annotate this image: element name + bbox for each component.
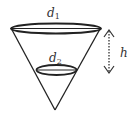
cone-diagram: d1 d2 h	[0, 0, 134, 118]
d2-label: d2	[49, 51, 62, 66]
cone-left-side	[11, 28, 55, 110]
d1-label: d1	[47, 6, 60, 21]
h-label: h	[120, 46, 128, 60]
